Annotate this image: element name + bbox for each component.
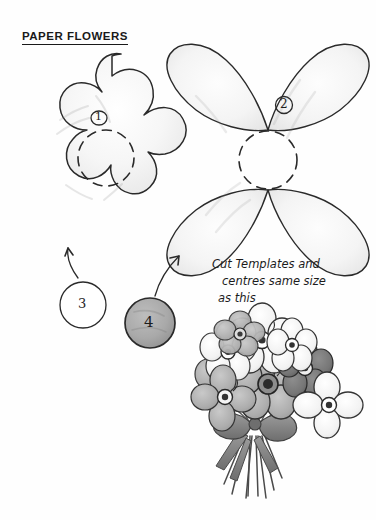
template-4-number: 4 [144, 313, 154, 331]
template-1-number: 1 [95, 110, 102, 123]
template-2-shape [167, 44, 369, 276]
instruction-line-3: as this [218, 290, 362, 307]
arrow-3-to-1 [65, 248, 78, 278]
instruction-line-2: centres same size [222, 273, 362, 290]
template-1-shape [57, 54, 186, 200]
instruction-line-1: Cut Templates and [212, 256, 362, 273]
flower-bouquet-sketch [191, 303, 363, 498]
template-3-number: 3 [78, 296, 86, 311]
template-2-centre-circle [239, 131, 297, 189]
instruction-note: Cut Templates and centres same size as t… [212, 256, 362, 307]
worksheet-page: PAPER FLOWERS [0, 0, 376, 520]
bouquet-flower [191, 303, 363, 438]
template-2-number: 2 [280, 97, 288, 111]
